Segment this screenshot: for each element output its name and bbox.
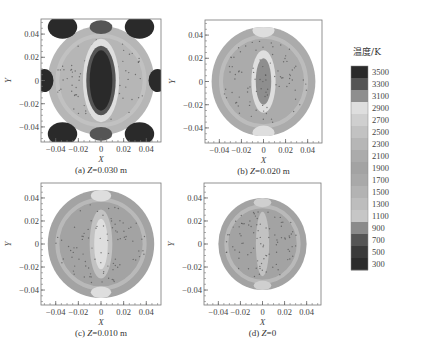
legend-label: 1700 bbox=[372, 175, 389, 185]
droplet-mark bbox=[103, 225, 104, 226]
y-tick-label: 0.02 bbox=[24, 52, 39, 62]
droplet-mark bbox=[264, 96, 265, 97]
droplet-mark bbox=[257, 260, 258, 261]
droplet-mark bbox=[256, 268, 257, 269]
droplet-mark bbox=[84, 276, 85, 277]
x-tick-label: 0.02 bbox=[278, 145, 293, 155]
y-tick-label: 0 bbox=[199, 77, 203, 87]
legend-swatch bbox=[351, 198, 368, 210]
droplet-mark bbox=[119, 264, 120, 265]
droplet-mark bbox=[112, 269, 113, 270]
legend-label: 3500 bbox=[372, 67, 389, 77]
droplet-mark bbox=[101, 281, 102, 282]
droplet-mark bbox=[61, 240, 62, 241]
droplet-mark bbox=[251, 116, 252, 117]
droplet-mark bbox=[292, 256, 293, 257]
droplet-mark bbox=[290, 222, 291, 223]
droplet-mark bbox=[100, 238, 101, 239]
droplet-mark bbox=[71, 69, 72, 70]
x-tick-label: 0 bbox=[261, 145, 265, 155]
droplet-mark bbox=[274, 216, 275, 217]
droplet-mark bbox=[257, 211, 258, 212]
droplet-mark bbox=[132, 259, 133, 260]
contour-region bbox=[256, 212, 269, 276]
droplet-mark bbox=[123, 50, 124, 51]
droplet-mark bbox=[266, 113, 267, 114]
droplet-mark bbox=[130, 226, 131, 227]
contour-region bbox=[254, 198, 272, 207]
droplet-mark bbox=[265, 227, 266, 228]
droplet-mark bbox=[97, 211, 98, 212]
droplet-mark bbox=[232, 66, 233, 67]
droplet-mark bbox=[62, 65, 63, 66]
droplet-mark bbox=[82, 253, 83, 254]
droplet-mark bbox=[265, 79, 266, 80]
temperature-contour-figure: −0.04−0.0200.020.040.040.020−0.02−0.04XY… bbox=[0, 0, 431, 352]
droplet-mark bbox=[75, 87, 76, 88]
legend-swatch bbox=[351, 102, 368, 114]
legend-label: 1100 bbox=[372, 211, 389, 221]
y-axis-label: Y bbox=[3, 241, 13, 247]
droplet-mark bbox=[138, 250, 139, 251]
y-tick-label: −0.02 bbox=[19, 99, 39, 109]
droplet-mark bbox=[75, 70, 76, 71]
droplet-mark bbox=[260, 237, 261, 238]
droplet-mark bbox=[254, 276, 255, 277]
droplet-mark bbox=[244, 223, 245, 224]
legend-label: 1500 bbox=[372, 187, 389, 197]
droplet-mark bbox=[71, 257, 72, 258]
droplet-mark bbox=[292, 79, 293, 80]
droplet-mark bbox=[266, 255, 267, 256]
x-tick-label: 0.04 bbox=[139, 307, 155, 317]
droplet-mark bbox=[96, 226, 97, 227]
droplet-mark bbox=[132, 240, 133, 241]
droplet-mark bbox=[140, 78, 141, 79]
droplet-mark bbox=[115, 258, 116, 259]
droplet-mark bbox=[85, 113, 86, 114]
droplet-mark bbox=[73, 108, 74, 109]
droplet-mark bbox=[238, 70, 239, 71]
x-tick-label: 0.04 bbox=[299, 307, 315, 317]
temperature-legend: 温度/K 35003300310029002700250023002100190… bbox=[351, 46, 389, 270]
droplet-mark bbox=[89, 276, 90, 277]
droplet-mark bbox=[263, 244, 264, 245]
droplet-mark bbox=[248, 224, 249, 225]
droplet-mark bbox=[239, 113, 240, 114]
legend-swatch bbox=[351, 222, 368, 234]
droplet-mark bbox=[229, 234, 230, 235]
x-tick-label: 0.02 bbox=[116, 144, 131, 154]
x-axis-label: X bbox=[97, 317, 104, 327]
y-tick-label: 0.04 bbox=[188, 30, 204, 40]
droplet-mark bbox=[233, 56, 234, 57]
droplet-mark bbox=[78, 113, 79, 114]
droplet-mark bbox=[277, 269, 278, 270]
droplet-mark bbox=[290, 75, 291, 76]
droplet-mark bbox=[255, 49, 256, 50]
droplet-mark bbox=[261, 263, 262, 264]
droplet-mark bbox=[73, 270, 74, 271]
droplet-mark bbox=[240, 51, 241, 52]
legend-swatch bbox=[351, 90, 368, 102]
droplet-mark bbox=[281, 222, 282, 223]
droplet-mark bbox=[289, 78, 290, 79]
droplet-mark bbox=[108, 208, 109, 209]
droplet-mark bbox=[276, 244, 277, 245]
y-tick-label: 0.04 bbox=[24, 29, 40, 39]
droplet-mark bbox=[100, 252, 101, 253]
droplet-mark bbox=[248, 268, 249, 269]
droplet-mark bbox=[276, 252, 277, 253]
droplet-mark bbox=[271, 42, 272, 43]
droplet-mark bbox=[74, 226, 75, 227]
droplet-mark bbox=[76, 247, 77, 248]
x-tick-label: −0.02 bbox=[232, 145, 252, 155]
droplet-mark bbox=[272, 267, 273, 268]
contour-region bbox=[252, 126, 274, 140]
droplet-mark bbox=[262, 66, 263, 67]
droplet-mark bbox=[71, 91, 72, 92]
droplet-mark bbox=[114, 207, 115, 208]
droplet-mark bbox=[303, 79, 304, 80]
droplet-mark bbox=[122, 97, 123, 98]
contour-region bbox=[252, 23, 274, 37]
droplet-mark bbox=[88, 267, 89, 268]
droplet-mark bbox=[291, 233, 292, 234]
